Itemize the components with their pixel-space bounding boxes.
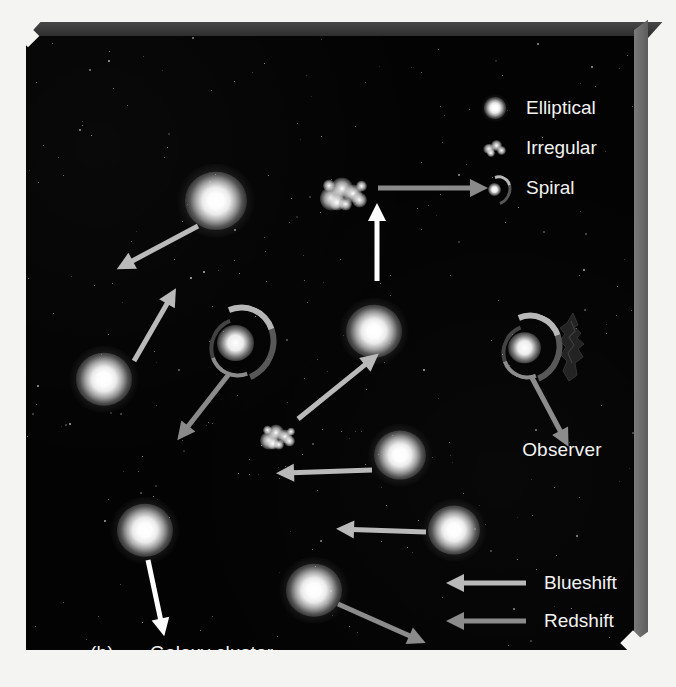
star: [61, 426, 62, 427]
star: [490, 550, 492, 552]
star: [543, 231, 545, 233]
star: [212, 423, 213, 424]
star: [452, 462, 453, 463]
star: [303, 255, 304, 256]
star: [140, 492, 142, 494]
star: [82, 125, 83, 126]
star: [517, 517, 518, 518]
star: [513, 608, 515, 610]
star: [323, 282, 324, 283]
star: [417, 208, 418, 209]
star: [28, 278, 29, 279]
star: [268, 175, 269, 176]
star: [407, 547, 408, 548]
star: [619, 68, 620, 69]
star: [156, 405, 157, 406]
star: [296, 216, 298, 218]
left-arrow-icon-redshift: [446, 612, 526, 630]
star: [627, 55, 628, 56]
star: [120, 584, 121, 585]
star: [113, 88, 114, 89]
star: [390, 275, 391, 276]
star: [469, 109, 470, 110]
star: [466, 164, 467, 165]
star: [104, 520, 106, 522]
star: [617, 286, 618, 287]
star: [36, 404, 37, 405]
star: [190, 277, 192, 279]
legend-label-elliptical: Elliptical: [526, 97, 596, 119]
star: [192, 37, 194, 39]
star: [309, 196, 311, 198]
star: [239, 273, 240, 274]
star: [421, 229, 422, 230]
star: [609, 637, 610, 638]
star: [624, 259, 625, 260]
observer-label: Observer: [522, 439, 602, 461]
star: [53, 313, 54, 314]
star: [632, 432, 634, 434]
star: [498, 300, 499, 301]
star: [208, 422, 209, 423]
elliptical-lower-right: [428, 506, 480, 555]
star: [583, 269, 585, 271]
star: [289, 222, 290, 223]
star: [438, 398, 439, 399]
observer-icon: [547, 311, 601, 385]
star: [156, 362, 157, 363]
star: [211, 90, 212, 91]
spiral-upper-left: [198, 299, 278, 383]
arrow-lower-right-blue: [336, 520, 427, 541]
star: [252, 72, 253, 73]
legend-label-no-shift: No shift: [544, 648, 608, 650]
star: [595, 86, 596, 87]
star: [536, 569, 537, 570]
star: [321, 39, 322, 40]
figure-caption: Galaxy cluster: [150, 642, 273, 650]
star: [505, 222, 506, 223]
star: [508, 645, 509, 646]
star: [442, 142, 443, 143]
star: [108, 499, 109, 500]
star: [266, 281, 267, 282]
star: [287, 402, 288, 403]
star: [619, 481, 620, 482]
star: [277, 636, 278, 637]
star: [307, 302, 308, 303]
figure-panel: Elliptical Irregular: [0, 0, 676, 687]
star: [421, 162, 422, 163]
star: [279, 572, 280, 573]
star: [381, 487, 382, 488]
star: [531, 479, 532, 480]
star: [458, 241, 460, 243]
star: [423, 369, 425, 371]
star: [518, 207, 519, 208]
star: [355, 126, 356, 127]
star: [576, 535, 578, 537]
star: [234, 260, 235, 261]
elliptical-left-edge: [76, 353, 132, 406]
star: [349, 438, 350, 439]
star: [264, 237, 265, 238]
star: [203, 271, 205, 273]
elliptical-galaxy-icon: [478, 91, 512, 125]
star: [632, 106, 633, 107]
star: [136, 231, 137, 232]
star: [167, 147, 168, 148]
star: [379, 66, 380, 67]
star: [463, 493, 464, 494]
star: [606, 333, 607, 334]
star: [304, 280, 305, 281]
star: [86, 639, 87, 640]
star: [411, 67, 412, 68]
star: [449, 442, 450, 443]
star: [606, 324, 607, 325]
star: [386, 505, 387, 506]
star: [591, 66, 593, 68]
star: [131, 241, 132, 242]
star: [71, 276, 72, 277]
arrow-irregular-top-red: [378, 179, 488, 197]
star: [502, 75, 503, 76]
star: [265, 251, 266, 252]
arrow-irregular-top-none: [368, 203, 386, 281]
